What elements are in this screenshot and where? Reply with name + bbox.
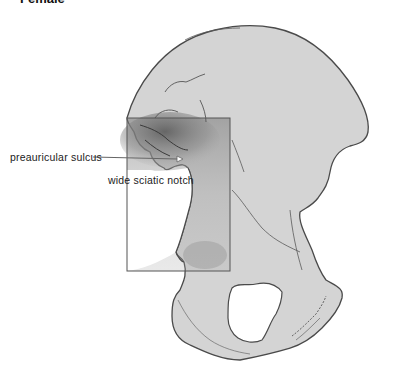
label-wide-sciatic-notch: wide sciatic notch: [108, 174, 194, 186]
label-preauricular-sulcus: preauricular sulcus: [10, 151, 102, 163]
pelvis-illustration: [0, 0, 394, 382]
